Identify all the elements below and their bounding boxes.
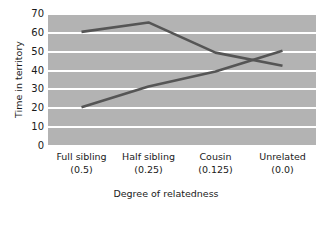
y-tick-label: 50 xyxy=(4,47,44,57)
x-axis-title: Degree of relatedness xyxy=(0,188,332,199)
x-tick-half-sibling: Half sibling (0.25) xyxy=(115,150,182,184)
x-tick-value: (0.0) xyxy=(249,163,316,176)
y-tick-label: 10 xyxy=(4,122,44,132)
x-tick-cousin: Cousin (0.125) xyxy=(182,150,249,184)
x-tick-unrelated: Unrelated (0.0) xyxy=(249,150,316,184)
x-tick-category: Full sibling xyxy=(48,150,115,163)
x-tick-value: (0.125) xyxy=(182,163,249,176)
y-tick-label: 60 xyxy=(4,28,44,38)
x-tick-category: Half sibling xyxy=(115,150,182,163)
y-tick-label: 20 xyxy=(4,103,44,113)
y-tick-label: 70 xyxy=(4,9,44,19)
x-axis-tick-labels: Full sibling (0.5) Half sibling (0.25) C… xyxy=(48,150,316,184)
plot-area xyxy=(48,13,316,145)
x-tick-value: (0.5) xyxy=(48,163,115,176)
x-tick-full-sibling: Full sibling (0.5) xyxy=(48,150,115,184)
y-tick-label: 40 xyxy=(4,66,44,76)
y-tick-label: 30 xyxy=(4,84,44,94)
x-tick-category: Unrelated xyxy=(249,150,316,163)
series-lines xyxy=(48,13,316,145)
x-tick-value: (0.25) xyxy=(115,163,182,176)
data-line-series-2 xyxy=(82,51,283,108)
x-tick-category: Cousin xyxy=(182,150,249,163)
line-chart: Time in territory 70 60 50 40 30 20 10 0… xyxy=(0,0,332,230)
y-tick-label: 0 xyxy=(4,141,44,151)
